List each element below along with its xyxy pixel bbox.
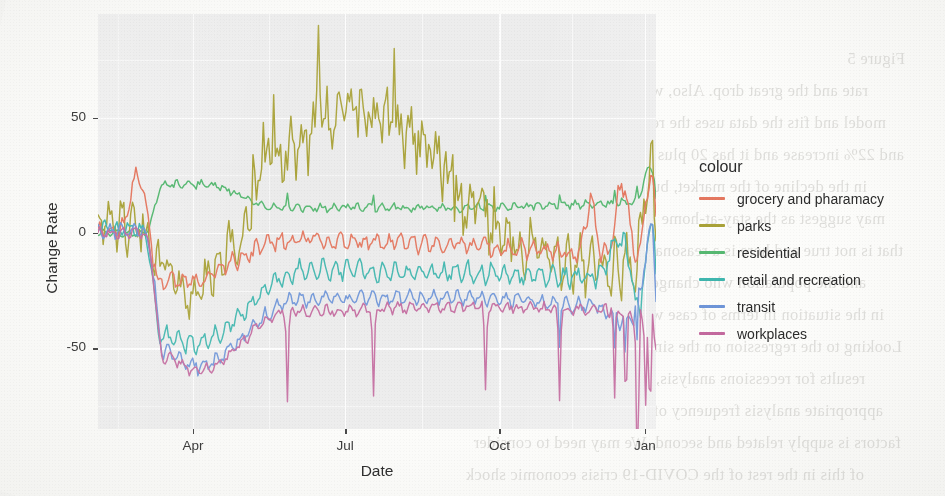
y-tick-mark xyxy=(93,118,98,119)
x-tick-label: Oct xyxy=(469,438,529,453)
legend-key-swatch xyxy=(697,245,727,261)
y-tick-label: -50 xyxy=(26,339,86,354)
legend-items: grocery and pharamacyparksresidentialret… xyxy=(697,185,884,347)
y-axis-title: Change Rate xyxy=(43,202,61,293)
mobility-change-rate-chart: 500-50 AprJulOctJan Change Rate Date col… xyxy=(0,0,945,496)
legend-key-swatch xyxy=(697,191,727,207)
legend-item-label: retail and recreation xyxy=(737,272,861,288)
legend: colour grocery and pharamacyparksresiden… xyxy=(697,158,884,347)
legend-key-swatch xyxy=(697,272,727,288)
series-lines xyxy=(98,14,656,429)
legend-item-label: workplaces xyxy=(737,326,807,342)
x-axis-title: Date xyxy=(98,462,656,480)
legend-item-label: grocery and pharamacy xyxy=(737,191,884,207)
plot-panel xyxy=(98,14,656,429)
legend-key-swatch xyxy=(697,218,727,234)
legend-key-swatch xyxy=(697,299,727,315)
legend-item-label: transit xyxy=(737,299,775,315)
series-line xyxy=(98,167,656,237)
legend-key-swatch xyxy=(697,326,727,342)
series-line xyxy=(98,223,656,376)
legend-item-label: parks xyxy=(737,218,771,234)
legend-item[interactable]: workplaces xyxy=(697,320,884,347)
legend-item[interactable]: grocery and pharamacy xyxy=(697,185,884,212)
legend-item-label: residential xyxy=(737,245,801,261)
series-line xyxy=(98,167,656,289)
x-tick-label: Jan xyxy=(615,438,675,453)
x-tick-mark xyxy=(345,429,346,434)
x-tick-label: Apr xyxy=(163,438,223,453)
y-tick-label: 50 xyxy=(26,109,86,124)
legend-item[interactable]: residential xyxy=(697,239,884,266)
x-tick-mark xyxy=(193,429,194,434)
y-tick-mark xyxy=(93,233,98,234)
legend-item[interactable]: retail and recreation xyxy=(697,266,884,293)
x-tick-label: Jul xyxy=(315,438,375,453)
legend-item[interactable]: parks xyxy=(697,212,884,239)
y-tick-mark xyxy=(93,348,98,349)
x-tick-mark xyxy=(645,429,646,434)
x-tick-mark xyxy=(499,429,500,434)
legend-item[interactable]: transit xyxy=(697,293,884,320)
legend-title: colour xyxy=(699,158,884,176)
